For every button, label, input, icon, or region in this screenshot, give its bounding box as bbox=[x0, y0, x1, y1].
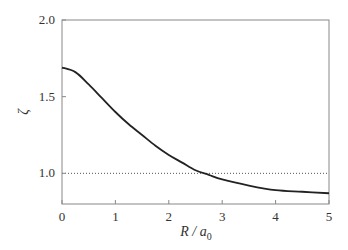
plot-area bbox=[62, 20, 329, 204]
x-tick-label: 1 bbox=[112, 209, 119, 224]
y-tick-label: 1.0 bbox=[39, 165, 55, 180]
plot-frame bbox=[62, 20, 329, 204]
x-tick-label: 4 bbox=[272, 209, 279, 224]
chart: 012345 1.01.52.0 R / a0 ζ bbox=[0, 0, 348, 250]
x-tick-label: 3 bbox=[219, 209, 226, 224]
x-tick-label: 2 bbox=[166, 209, 173, 224]
x-tick-label: 0 bbox=[59, 209, 66, 224]
x-tick-label: 5 bbox=[326, 209, 333, 224]
x-axis-label: R / a0 bbox=[179, 224, 211, 242]
y-tick-label: 2.0 bbox=[39, 12, 55, 27]
y-axis-label: ζ bbox=[16, 108, 31, 115]
zeta-curve bbox=[62, 68, 329, 194]
y-tick-label: 1.5 bbox=[39, 89, 55, 104]
